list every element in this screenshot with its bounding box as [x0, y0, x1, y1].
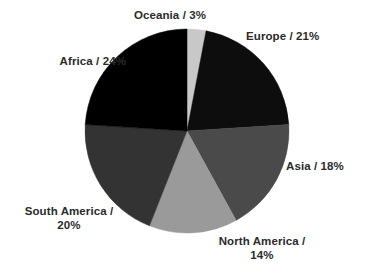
- pie-label-asia: Asia / 18%: [286, 159, 364, 173]
- pie-label-north-america: North America / 14%: [196, 234, 328, 263]
- pie-label-africa: Africa / 24%: [8, 54, 126, 68]
- pie-slice-africa[interactable]: [85, 29, 187, 131]
- pie-label-oceania: Oceania / 3%: [108, 8, 232, 22]
- pie-chart-figure: Oceania / 3% Europe / 21% Africa / 24% A…: [0, 0, 367, 277]
- pie-label-south-america: South America / 20%: [6, 204, 132, 233]
- pie-label-europe: Europe / 21%: [246, 29, 360, 43]
